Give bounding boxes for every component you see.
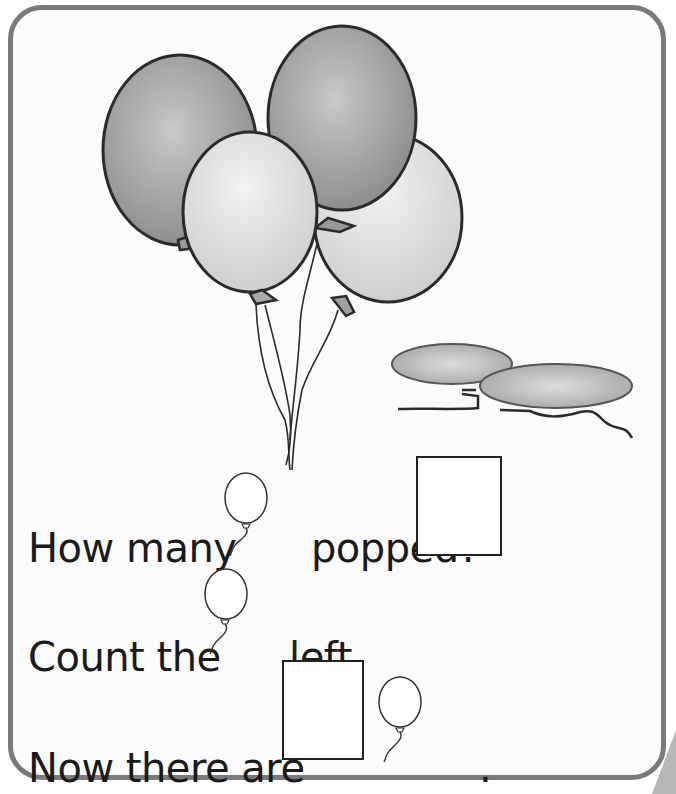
question-1-before: How many [28, 525, 236, 571]
balloon-icon [220, 472, 270, 558]
question-3-before: Now there are [28, 745, 305, 791]
answer-box-popped[interactable] [416, 456, 502, 556]
balloon-light-front [183, 132, 317, 304]
page-curl [652, 730, 676, 794]
balloon-icon [374, 676, 424, 762]
answer-box-left[interactable] [282, 660, 364, 760]
question-2-before: Count the [28, 634, 221, 680]
question-3-after: . [479, 745, 491, 791]
popped-balloons [392, 344, 632, 438]
balloon-icon [200, 566, 250, 654]
